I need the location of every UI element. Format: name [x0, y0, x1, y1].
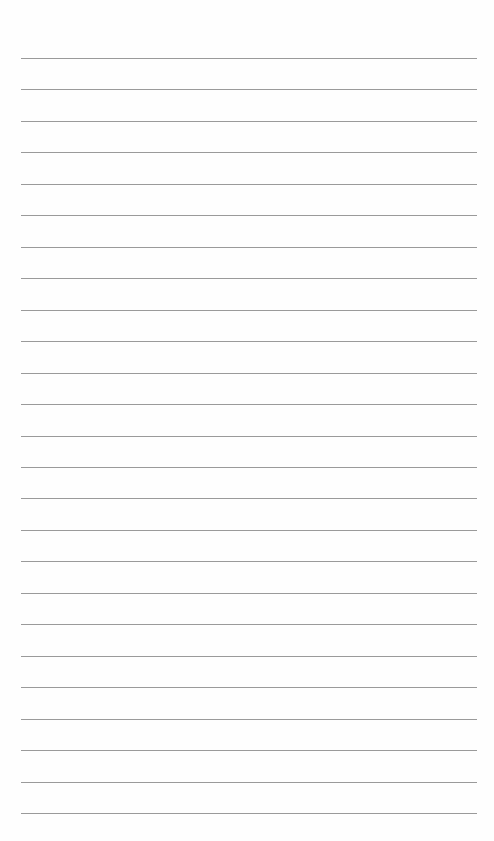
ruled-line [21, 750, 477, 751]
ruled-line [21, 278, 477, 279]
ruled-line [21, 813, 477, 814]
ruled-line [21, 89, 477, 90]
ruled-line [21, 215, 477, 216]
ruled-line [21, 530, 477, 531]
ruled-line [21, 152, 477, 153]
ruled-line [21, 247, 477, 248]
ruled-line [21, 624, 477, 625]
ruled-line [21, 121, 477, 122]
ruled-line [21, 467, 477, 468]
ruled-line [21, 341, 477, 342]
ruled-line [21, 561, 477, 562]
ruled-line [21, 58, 477, 59]
ruled-line [21, 404, 477, 405]
ruled-line [21, 593, 477, 594]
lined-paper-page [0, 0, 494, 841]
ruled-line [21, 436, 477, 437]
ruled-line [21, 184, 477, 185]
ruled-line [21, 310, 477, 311]
ruled-line [21, 782, 477, 783]
ruled-line [21, 687, 477, 688]
ruled-line [21, 498, 477, 499]
ruled-line [21, 656, 477, 657]
ruled-line [21, 373, 477, 374]
ruled-line [21, 719, 477, 720]
